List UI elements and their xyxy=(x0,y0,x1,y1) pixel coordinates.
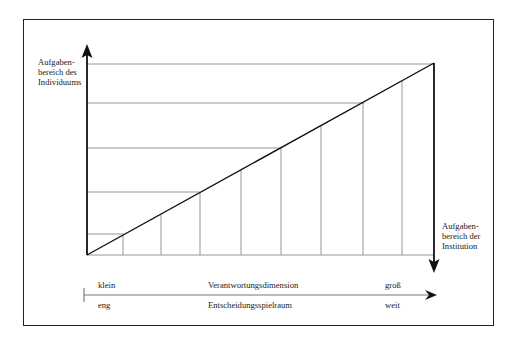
scale-start-upper: klein xyxy=(98,280,115,290)
upper-axis-title: Verantwortungsdimension xyxy=(208,280,298,290)
right-axis-label: Aufgaben- bereich der Institution xyxy=(442,222,480,251)
diagonal-line xyxy=(87,63,434,255)
left-axis-label: Aufgaben- bereich des Individuums xyxy=(38,58,81,87)
scale-start-lower: eng xyxy=(98,300,110,310)
scale-end-upper: groß xyxy=(385,280,401,290)
left-label-line-3: Individuums xyxy=(38,78,81,88)
vertical-grid-lines xyxy=(123,81,402,255)
lower-axis-title: Entscheidungsspielraum xyxy=(208,300,292,310)
scale-end-lower: weit xyxy=(385,300,400,310)
responsibility-diagram xyxy=(0,0,520,343)
right-label-line-3: Institution xyxy=(442,242,480,252)
